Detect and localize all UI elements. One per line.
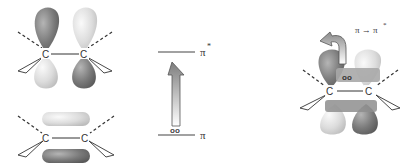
diagram-canvas: C C C C π * π oo oo xyxy=(0,0,416,165)
carbon-atom: C xyxy=(365,86,372,97)
electron-pair: oo xyxy=(342,73,352,82)
carbon-atom: C xyxy=(81,133,88,144)
wedge-bond xyxy=(300,95,326,110)
wedge-bond xyxy=(376,95,400,110)
dashed-bond xyxy=(18,116,42,133)
transition-superscript: * xyxy=(383,21,387,29)
transition-label: π → π xyxy=(355,25,378,35)
carbon-atom: C xyxy=(42,133,49,144)
wedge-bond xyxy=(89,141,114,157)
pi-lobe-upper-light xyxy=(42,112,90,126)
pi-star-orbital-left: C C xyxy=(18,8,112,89)
dashed-bond xyxy=(90,116,114,133)
pi-star-superscript: * xyxy=(207,42,211,51)
carbon-atom: C xyxy=(80,49,87,60)
pi-label: π xyxy=(200,129,206,141)
carbon-atom: C xyxy=(326,86,333,97)
electron-pair: oo xyxy=(170,126,180,135)
excitation-arrow xyxy=(168,62,184,126)
energy-level-diagram: π * π oo xyxy=(158,42,211,141)
pi-lobe-lower-dark xyxy=(42,149,90,163)
lobe-upper-right-light xyxy=(73,8,97,53)
pi-star-label: π xyxy=(200,46,206,58)
carbon-atom: C xyxy=(42,49,49,60)
wedge-bond xyxy=(18,141,43,157)
pi-slab-lower xyxy=(325,100,377,112)
pi-orbital-left: C C xyxy=(18,112,114,163)
excited-state-orbital-right: oo π → π * C C xyxy=(300,21,400,135)
